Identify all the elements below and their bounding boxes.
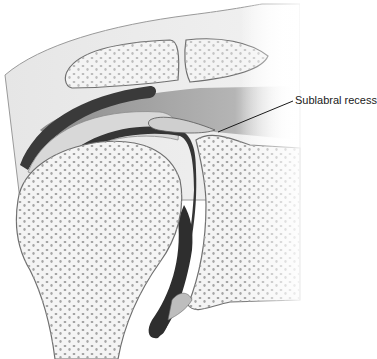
label-sublabral-recess: Sublabral recess: [295, 94, 377, 106]
